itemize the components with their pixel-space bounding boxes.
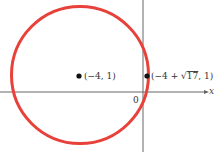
coordinate-diagram: (−4, 1) (−4 + √17, 1) 0 x [0, 0, 216, 162]
x-axis-label: x [209, 86, 214, 96]
center-point [76, 73, 81, 78]
right-point-label: (−4 + √17, 1) [151, 71, 213, 81]
center-point-label: (−4, 1) [84, 71, 116, 81]
right-point [144, 73, 149, 78]
origin-label: 0 [133, 95, 139, 105]
